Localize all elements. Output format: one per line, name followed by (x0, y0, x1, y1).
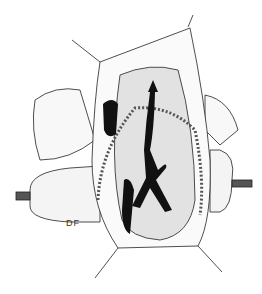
artist-signature: DF (66, 218, 80, 228)
retraction-suture-bottom-left (95, 248, 118, 278)
surgical-illustration (0, 0, 262, 294)
right-retractor-roll (210, 150, 233, 212)
retraction-suture-top-left (72, 40, 100, 62)
left-rod-end (16, 192, 30, 200)
left-retractor-roll (30, 166, 100, 222)
retraction-suture-bottom-right (198, 246, 222, 272)
dark-gap (103, 100, 118, 136)
left-tissue-flap (33, 89, 95, 160)
right-tissue-flap (205, 95, 238, 145)
right-rod-end (232, 180, 252, 187)
retraction-suture-top-right (188, 15, 193, 27)
